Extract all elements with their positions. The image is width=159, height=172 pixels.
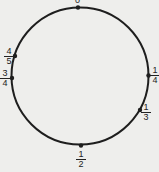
denominator: 4 (0, 79, 10, 88)
denominator: 2 (76, 160, 86, 169)
label-one-quarter: 1 4 (150, 66, 159, 85)
point-one-half (79, 143, 83, 147)
point-three-quarters (10, 76, 14, 80)
denominator: 4 (150, 76, 159, 85)
circle-diagram (0, 0, 159, 172)
label-four-fifths: 4 5 (4, 47, 14, 66)
denominator: 3 (141, 113, 151, 122)
label-0: 0 (75, 0, 80, 5)
label-one-third: 1 3 (141, 103, 151, 122)
label-one-half: 1 2 (76, 150, 86, 169)
circle-outline (12, 8, 149, 145)
point-0 (76, 5, 80, 9)
denominator: 5 (4, 57, 14, 66)
label-three-quarters: 3 4 (0, 69, 10, 88)
